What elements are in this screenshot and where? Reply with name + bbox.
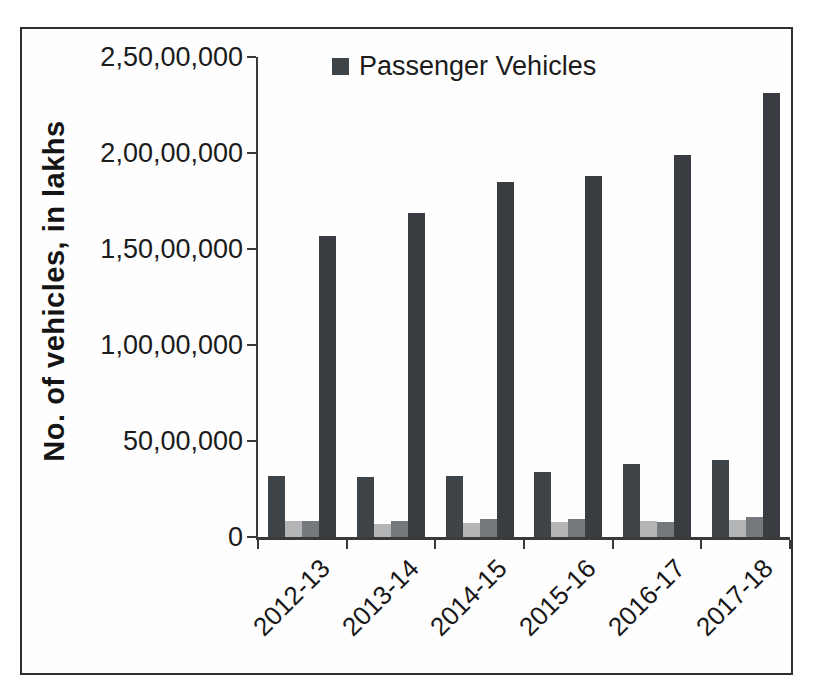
x-axis-tick-mark (346, 540, 348, 549)
y-axis-tick-mark (247, 248, 256, 250)
bar-unlabeled-series-dark-tall-2015-16 (585, 176, 602, 537)
y-axis-tick-mark (247, 440, 256, 442)
y-axis-tick-mark (247, 56, 256, 58)
x-axis-tick-mark (789, 540, 791, 549)
x-axis-tick-mark (434, 540, 436, 549)
bar-unlabeled-series-medium-gray-2015-16 (568, 519, 585, 537)
x-axis-tick-label: 2015-16 (513, 553, 602, 642)
y-axis-tick-mark (247, 344, 256, 346)
y-axis-tick-label: 50,00,000 (22, 425, 243, 457)
x-axis-tick-mark (523, 540, 525, 549)
bar-unlabeled-series-medium-gray-2016-17 (657, 522, 674, 537)
y-axis-tick-mark (247, 152, 256, 154)
x-axis-tick-label: 2014-15 (424, 553, 513, 642)
bar-unlabeled-series-light-gray-2015-16 (551, 522, 568, 537)
x-axis-tick-mark (612, 540, 614, 549)
y-axis-tick-mark (247, 536, 256, 538)
bar-unlabeled-series-light-gray-2012-13 (285, 521, 302, 537)
bar-Passenger Vehicles-2014-15 (446, 476, 463, 537)
bar-unlabeled-series-dark-tall-2013-14 (408, 213, 425, 537)
y-axis-tick-label: 0 (22, 521, 243, 553)
bar-unlabeled-series-light-gray-2014-15 (463, 523, 480, 537)
bar-Passenger Vehicles-2012-13 (268, 476, 285, 537)
y-axis-title: No. of vehicles, in lakhs (38, 120, 71, 461)
x-axis-tick-label: 2013-14 (336, 553, 425, 642)
bar-unlabeled-series-dark-tall-2012-13 (319, 236, 336, 537)
bar-unlabeled-series-light-gray-2016-17 (640, 521, 657, 537)
chart-figure: No. of vehicles, in lakhs Passenger Vehi… (20, 27, 793, 675)
bar-unlabeled-series-medium-gray-2013-14 (391, 521, 408, 537)
bar-Passenger Vehicles-2016-17 (623, 464, 640, 537)
bar-Passenger Vehicles-2017-18 (712, 460, 729, 537)
bar-unlabeled-series-medium-gray-2012-13 (302, 521, 319, 537)
bar-Passenger Vehicles-2015-16 (534, 472, 551, 537)
x-axis-tick-mark (700, 540, 702, 549)
x-axis-tick-label: 2016-17 (602, 553, 691, 642)
y-axis-tick-label: 1,00,00,000 (22, 329, 243, 361)
plot-area (256, 57, 790, 540)
bar-Passenger Vehicles-2013-14 (357, 477, 374, 537)
x-axis-tick-label: 2012-13 (247, 553, 336, 642)
bar-unlabeled-series-medium-gray-2017-18 (746, 517, 763, 537)
bar-unlabeled-series-dark-tall-2017-18 (763, 93, 780, 537)
bar-unlabeled-series-medium-gray-2014-15 (480, 519, 497, 537)
y-axis-tick-label: 1,50,00,000 (22, 233, 243, 265)
bar-unlabeled-series-dark-tall-2014-15 (497, 182, 514, 537)
y-axis-tick-label: 2,00,00,000 (22, 137, 243, 169)
x-axis-tick-mark (257, 540, 259, 549)
bar-unlabeled-series-light-gray-2013-14 (374, 524, 391, 537)
bar-unlabeled-series-light-gray-2017-18 (729, 520, 746, 537)
y-axis-tick-label: 2,50,00,000 (22, 41, 243, 73)
bar-unlabeled-series-dark-tall-2016-17 (674, 155, 691, 537)
x-axis-tick-label: 2017-18 (690, 553, 779, 642)
